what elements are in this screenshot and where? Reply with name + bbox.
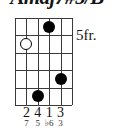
interval-degree-string-5: 3 xyxy=(58,119,63,128)
filled-marker-string4-fret1 xyxy=(43,21,55,33)
string-line-6 xyxy=(72,18,73,105)
fret-line-1 xyxy=(15,35,72,36)
fret-line-0 xyxy=(15,18,72,19)
interval-degree-string-2: 7 xyxy=(24,119,29,128)
filled-marker-string5-fret4 xyxy=(55,73,67,85)
chord-name-label: Amaj7#5/B xyxy=(10,0,104,8)
string-line-2 xyxy=(26,18,27,105)
open-marker-string2-fret2 xyxy=(20,38,32,50)
interval-row: 75♭63 xyxy=(15,119,72,131)
chord-title-clip: Amaj7#5/B xyxy=(0,0,114,12)
string-line-5 xyxy=(61,18,62,105)
interval-degree-string-3: 5 xyxy=(36,119,41,128)
fretboard-grid xyxy=(15,18,72,105)
fret-position-label: 5fr. xyxy=(76,28,96,43)
fret-line-2 xyxy=(15,53,72,54)
interval-degree-string-4: ♭6 xyxy=(45,119,54,128)
fret-line-3 xyxy=(15,70,72,71)
fret-line-4 xyxy=(15,88,72,89)
chord-diagram: Amaj7#5/B 5fr. 2413 75♭63 xyxy=(0,0,114,131)
filled-marker-string3-fret5 xyxy=(32,90,44,102)
string-line-1 xyxy=(15,18,16,105)
